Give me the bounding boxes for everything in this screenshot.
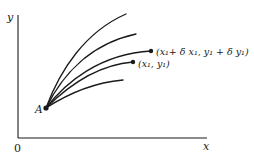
axes (18, 15, 207, 138)
point-a-label: A (34, 103, 43, 115)
point-p2-marker (149, 49, 153, 53)
point-a-marker (43, 105, 48, 110)
origin-label: 0 (14, 142, 21, 155)
curve-2 (46, 34, 136, 108)
x-axis-label: x (203, 140, 210, 153)
point-p1-label: (x₁, y₁) (138, 58, 170, 69)
point-p2-label: (x₁+ δ x₁, y₁ + δ y₁) (156, 46, 249, 57)
curve-family (46, 14, 151, 108)
point-p1-marker (131, 60, 135, 64)
y-axis-label: y (6, 11, 14, 24)
diagram-figure: y x 0 A (x₁, y₁) (x₁+ δ x₁, y₁ + δ y₁) (0, 0, 254, 158)
